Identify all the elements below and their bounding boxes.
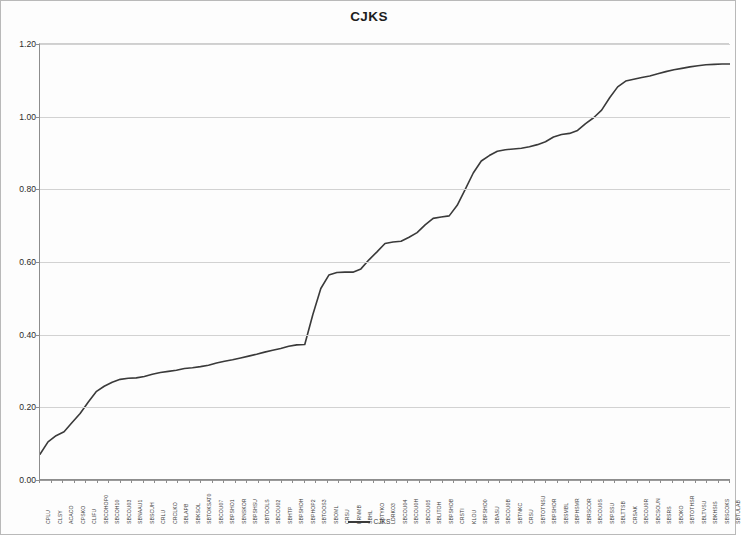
gridline — [40, 117, 730, 118]
x-axis-tick-mark — [488, 479, 489, 483]
y-axis-tick-mark — [36, 117, 40, 118]
legend-line-icon — [348, 521, 370, 523]
y-axis-tick-mark — [36, 262, 40, 263]
x-axis-tick-mark — [97, 479, 98, 483]
x-axis-tick-mark — [51, 479, 52, 483]
x-axis-tick-mark — [350, 479, 351, 483]
x-axis-tick-mark — [200, 479, 201, 483]
x-axis-tick-mark — [614, 479, 615, 483]
x-axis-tick-mark — [499, 479, 500, 483]
x-axis-tick-mark — [660, 479, 661, 483]
y-axis-tick-label: 0.80 — [2, 184, 36, 194]
x-axis-tick-mark — [143, 479, 144, 483]
x-axis-tick-mark — [522, 479, 523, 483]
x-axis-tick-mark — [166, 479, 167, 483]
chart-legend: CJKS — [1, 518, 737, 525]
x-axis-tick-mark — [465, 479, 466, 483]
x-axis-tick-mark — [557, 479, 558, 483]
x-axis-tick-mark — [396, 479, 397, 483]
x-axis-tick-mark — [580, 479, 581, 483]
chart-title: CJKS — [1, 9, 737, 24]
x-axis-tick-mark — [729, 479, 730, 483]
gridline — [40, 44, 730, 45]
x-axis-tick-mark — [131, 479, 132, 483]
y-axis-tick-label: 0.60 — [2, 257, 36, 267]
x-axis-tick-mark — [442, 479, 443, 483]
y-axis-tick-mark — [36, 335, 40, 336]
x-axis-tick-mark — [177, 479, 178, 483]
x-axis-tick-mark — [568, 479, 569, 483]
x-axis-tick-mark — [453, 479, 454, 483]
y-axis-tick-mark — [36, 189, 40, 190]
gridline — [40, 407, 730, 408]
x-axis-tick-mark — [39, 479, 40, 483]
x-axis-tick-mark — [120, 479, 121, 483]
x-axis-tick-mark — [683, 479, 684, 483]
x-axis-tick-mark — [235, 479, 236, 483]
x-axis-tick-mark — [189, 479, 190, 483]
x-axis-tick-mark — [281, 479, 282, 483]
x-axis-tick-mark — [545, 479, 546, 483]
x-axis-tick-mark — [591, 479, 592, 483]
x-axis-tick-mark — [637, 479, 638, 483]
x-axis-tick-mark — [603, 479, 604, 483]
x-axis-tick-mark — [706, 479, 707, 483]
x-axis-tick-mark — [223, 479, 224, 483]
x-axis-tick-mark — [407, 479, 408, 483]
x-axis-tick-mark — [85, 479, 86, 483]
x-axis-tick-mark — [672, 479, 673, 483]
x-axis-tick-mark — [361, 479, 362, 483]
x-axis-tick-mark — [212, 479, 213, 483]
x-axis-tick-mark — [304, 479, 305, 483]
x-axis-tick-mark — [649, 479, 650, 483]
legend-item-label: CJKS — [374, 518, 391, 525]
x-axis-tick-mark — [246, 479, 247, 483]
x-axis-tick-mark — [511, 479, 512, 483]
gridline — [40, 262, 730, 263]
x-axis-tick-mark — [62, 479, 63, 483]
x-axis-tick-mark — [292, 479, 293, 483]
x-axis-tick-mark — [430, 479, 431, 483]
x-axis-tick-mark — [373, 479, 374, 483]
x-axis-tick-mark — [419, 479, 420, 483]
x-axis-tick-mark — [695, 479, 696, 483]
x-axis-tick-mark — [269, 479, 270, 483]
y-axis-tick-label: 0.00 — [2, 475, 36, 485]
x-axis-tick-mark — [154, 479, 155, 483]
x-axis-tick-mark — [108, 479, 109, 483]
y-axis-tick-label: 0.20 — [2, 402, 36, 412]
x-axis-tick-mark — [327, 479, 328, 483]
gridline — [40, 189, 730, 190]
x-axis-tick-mark — [718, 479, 719, 483]
gridline — [40, 335, 730, 336]
x-axis-tick-mark — [258, 479, 259, 483]
y-axis-tick-mark — [36, 407, 40, 408]
plot-area: 0.000.200.400.600.801.001.20 — [39, 43, 729, 479]
y-axis-tick-label: 0.40 — [2, 330, 36, 340]
x-axis-tick-mark — [315, 479, 316, 483]
y-axis-tick-mark — [36, 44, 40, 45]
x-axis-tick-mark — [384, 479, 385, 483]
x-axis-tick-mark — [74, 479, 75, 483]
x-axis-tick-mark — [338, 479, 339, 483]
x-axis-tick-mark — [626, 479, 627, 483]
x-axis-tick-mark — [534, 479, 535, 483]
x-axis-tick-mark — [476, 479, 477, 483]
y-axis-tick-label: 1.00 — [2, 112, 36, 122]
y-axis-tick-label: 1.20 — [2, 39, 36, 49]
